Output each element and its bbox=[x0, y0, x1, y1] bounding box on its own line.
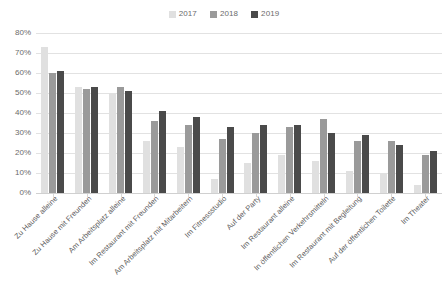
legend-label: 2017 bbox=[179, 10, 197, 18]
y-tick-label: 0% bbox=[19, 189, 31, 197]
x-tick-label: Zu Hause mit Freunden bbox=[30, 194, 93, 257]
bar-2017[interactable] bbox=[346, 171, 353, 193]
bar-group bbox=[374, 33, 408, 193]
bar-2017[interactable] bbox=[278, 155, 285, 193]
bar-group bbox=[273, 33, 307, 193]
bar-2019[interactable] bbox=[362, 135, 369, 193]
bar-2018[interactable] bbox=[49, 73, 56, 193]
x-axis-labels: Zu Hause alleineZu Hause mit FreundenAm … bbox=[36, 194, 442, 299]
bar-2018[interactable] bbox=[422, 155, 429, 193]
bar-2018[interactable] bbox=[83, 89, 90, 193]
bar-2017[interactable] bbox=[177, 147, 184, 193]
bar-2017[interactable] bbox=[75, 87, 82, 193]
bar-2018[interactable] bbox=[252, 133, 259, 193]
y-tick-label: 20% bbox=[15, 149, 31, 157]
legend-swatch-icon bbox=[210, 11, 217, 18]
bar-2019[interactable] bbox=[396, 145, 403, 193]
y-tick-label: 80% bbox=[15, 29, 31, 37]
bar-2018[interactable] bbox=[388, 141, 395, 193]
bar-group bbox=[340, 33, 374, 193]
bar-2018[interactable] bbox=[354, 141, 361, 193]
bar-2017[interactable] bbox=[143, 141, 150, 193]
bar-group bbox=[239, 33, 273, 193]
legend-2017[interactable]: 2017 bbox=[169, 10, 197, 18]
legend-swatch-icon bbox=[251, 11, 258, 18]
y-tick-label: 40% bbox=[15, 109, 31, 117]
x-tick-label: Im Theater bbox=[399, 194, 431, 226]
x-tick-label: Am Arbeitsplatz alleine bbox=[66, 194, 127, 255]
y-tick-label: 30% bbox=[15, 129, 31, 137]
bar-2017[interactable] bbox=[312, 161, 319, 193]
chart-legend: 201720182019 bbox=[0, 8, 448, 20]
bar-2017[interactable] bbox=[41, 47, 48, 193]
bar-2017[interactable] bbox=[211, 179, 218, 193]
x-tick-label: Auf der öffentlichen Toilette bbox=[326, 194, 397, 265]
bar-group bbox=[171, 33, 205, 193]
bar-group bbox=[70, 33, 104, 193]
y-tick-label: 10% bbox=[15, 169, 31, 177]
y-tick-label: 70% bbox=[15, 49, 31, 57]
y-tick-label: 60% bbox=[15, 69, 31, 77]
bar-2017[interactable] bbox=[244, 163, 251, 193]
bar-2019[interactable] bbox=[328, 133, 335, 193]
bar-chart: 201720182019 0%10%20%30%40%50%60%70%80% … bbox=[0, 0, 448, 301]
bar-2018[interactable] bbox=[320, 119, 327, 193]
bar-2019[interactable] bbox=[193, 117, 200, 193]
bar-2018[interactable] bbox=[219, 139, 226, 193]
bar-group bbox=[205, 33, 239, 193]
bar-2019[interactable] bbox=[227, 127, 234, 193]
bar-group bbox=[307, 33, 341, 193]
bar-2018[interactable] bbox=[286, 127, 293, 193]
legend-2018[interactable]: 2018 bbox=[210, 10, 238, 18]
bar-2017[interactable] bbox=[109, 93, 116, 193]
bar-2018[interactable] bbox=[151, 121, 158, 193]
bar-2019[interactable] bbox=[125, 91, 132, 193]
legend-label: 2018 bbox=[220, 10, 238, 18]
bar-groups bbox=[36, 33, 442, 193]
plot-area: 0%10%20%30%40%50%60%70%80% bbox=[36, 33, 442, 193]
bar-2019[interactable] bbox=[260, 125, 267, 193]
bar-2019[interactable] bbox=[57, 71, 64, 193]
bar-group bbox=[104, 33, 138, 193]
bar-group bbox=[408, 33, 442, 193]
legend-swatch-icon bbox=[169, 11, 176, 18]
legend-label: 2019 bbox=[261, 10, 279, 18]
bar-2019[interactable] bbox=[91, 87, 98, 193]
bar-2019[interactable] bbox=[294, 125, 301, 193]
legend-2019[interactable]: 2019 bbox=[251, 10, 279, 18]
bar-2018[interactable] bbox=[117, 87, 124, 193]
bar-2017[interactable] bbox=[380, 173, 387, 193]
bar-2018[interactable] bbox=[185, 125, 192, 193]
bar-group bbox=[36, 33, 70, 193]
bar-2019[interactable] bbox=[430, 151, 437, 193]
bar-2017[interactable] bbox=[414, 185, 421, 193]
y-tick-label: 50% bbox=[15, 89, 31, 97]
bar-2019[interactable] bbox=[159, 111, 166, 193]
bar-group bbox=[137, 33, 171, 193]
